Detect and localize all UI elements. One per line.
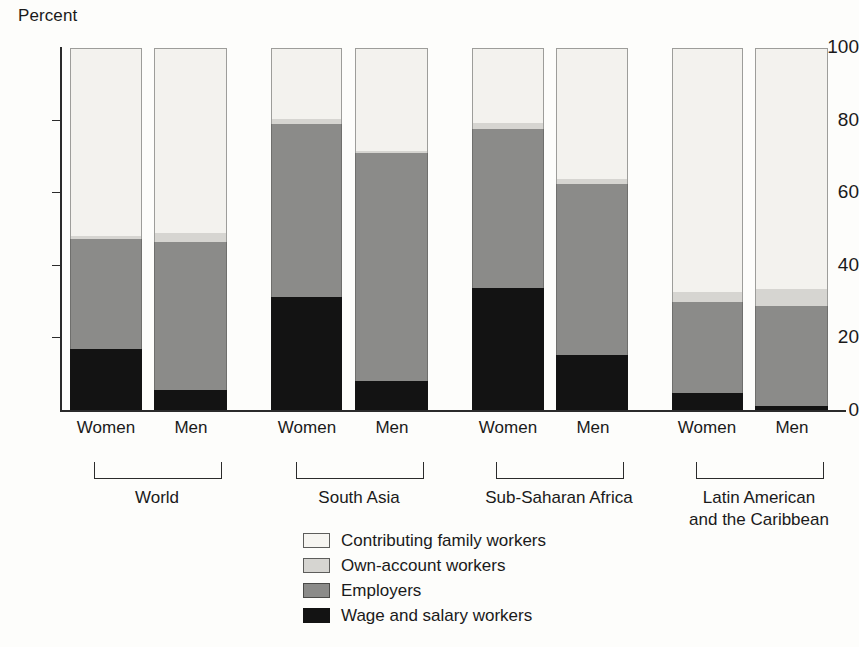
bar-segment-contributing-family-workers [271,48,342,119]
bar-label-world-women: Women [66,418,146,438]
bar-segment-employers [755,306,828,407]
bar-segment-wage-and-salary-workers [271,297,342,410]
group-label-ssafrica: Sub-Saharan Africa [466,487,652,509]
bar-south-asia-women [271,48,342,410]
bar-segment-wage-and-salary-workers [70,349,142,410]
bar-segment-wage-and-salary-workers [755,406,828,410]
legend-label-own-account-workers: Own-account workers [341,556,505,576]
group-bracket-southasia [296,462,424,479]
bar-segment-employers [154,242,227,390]
bar-world-women [70,48,142,410]
bar-label-southasia-women: Women [267,418,347,438]
bar-segment-contributing-family-workers [672,48,743,292]
bar-segment-contributing-family-workers [755,48,828,289]
bar-segment-employers [472,129,544,287]
legend: Contributing family workers Own-account … [303,528,546,628]
legend-swatch-contributing-family-workers [303,533,330,548]
legend-label-contributing-family-workers: Contributing family workers [341,531,546,551]
bar-segment-employers [672,302,743,393]
bar-label-ssafrica-women: Women [468,418,548,438]
x-axis-line [60,410,846,412]
group-label-southasia: South Asia [279,487,439,509]
bar-sub-saharan-africa-men [556,48,628,410]
stacked-bar-chart: Percent 100 80 60 40 20 0 Women Men Wome… [0,0,859,647]
bar-segment-wage-and-salary-workers [154,390,227,410]
bar-latin-american-and-the-caribbean-men [755,48,828,410]
bar-segment-own-account-workers [672,292,743,302]
group-label-world: World [77,487,237,509]
bar-segment-wage-and-salary-workers [355,381,428,410]
bar-segment-wage-and-salary-workers [672,393,743,410]
bar-segment-own-account-workers [154,233,227,242]
bar-label-ssafrica-men: Men [553,418,633,438]
bar-segment-contributing-family-workers [355,48,428,151]
bar-segment-contributing-family-workers [556,48,628,179]
bar-sub-saharan-africa-women [472,48,544,410]
bar-label-lac-women: Women [667,418,747,438]
bar-segment-own-account-workers [472,123,544,130]
group-bracket-world [94,462,222,479]
legend-label-wage-and-salary-workers: Wage and salary workers [341,606,532,626]
bar-segment-employers [355,153,428,381]
bar-label-lac-men: Men [752,418,832,438]
bar-label-southasia-men: Men [352,418,432,438]
legend-swatch-own-account-workers [303,558,330,573]
bar-world-men [154,48,227,410]
group-bracket-ssafrica [496,462,624,479]
bar-segment-employers [556,184,628,355]
bar-segment-wage-and-salary-workers [556,355,628,410]
bar-segment-employers [70,239,142,349]
bar-latin-american-and-the-caribbean-women [672,48,743,410]
legend-item-employers: Employers [303,578,546,603]
bar-segment-contributing-family-workers [472,48,544,123]
legend-item-contributing-family-workers: Contributing family workers [303,528,546,553]
bar-segment-contributing-family-workers [70,48,142,236]
bar-segment-employers [271,124,342,297]
y-axis-line [60,47,62,411]
bar-south-asia-men [355,48,428,410]
bar-segment-wage-and-salary-workers [472,288,544,410]
group-label-lac-text: Latin American and the Caribbean [689,488,829,529]
group-bracket-lac [696,462,824,479]
legend-item-wage-and-salary-workers: Wage and salary workers [303,603,546,628]
legend-swatch-employers [303,583,330,598]
bar-label-world-men: Men [151,418,231,438]
legend-swatch-wage-and-salary-workers [303,608,330,623]
legend-label-employers: Employers [341,581,421,601]
group-label-lac: Latin American and the Caribbean [679,487,839,531]
bar-segment-contributing-family-workers [154,48,227,233]
legend-item-own-account-workers: Own-account workers [303,553,546,578]
bar-segment-own-account-workers [755,289,828,306]
